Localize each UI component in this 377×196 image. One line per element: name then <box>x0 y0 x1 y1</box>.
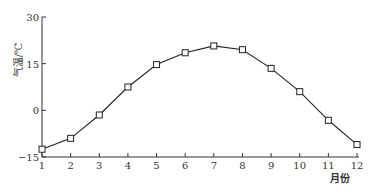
temperature-line-chart: −1501530123456789101112 气温/℃ 月份 <box>0 0 377 196</box>
x-tick-label: 12 <box>351 160 364 171</box>
x-tick-label: 7 <box>211 160 217 171</box>
data-point-marker <box>96 112 102 118</box>
data-point-marker <box>268 65 274 71</box>
data-point-marker <box>68 135 74 141</box>
data-point-marker <box>239 47 245 53</box>
data-point-marker <box>125 84 131 90</box>
x-tick-label: 9 <box>268 160 274 171</box>
temperature-line <box>42 46 357 149</box>
x-tick-label: 1 <box>39 160 45 171</box>
data-point-marker <box>154 62 160 68</box>
y-tick-label: 15 <box>26 59 39 70</box>
x-tick-label: 3 <box>96 160 102 171</box>
x-tick-label: 6 <box>182 160 188 171</box>
data-point-marker <box>325 117 331 123</box>
y-tick-label: 30 <box>26 12 39 23</box>
data-point-marker <box>297 89 303 95</box>
x-tick-label: 4 <box>125 160 131 171</box>
y-axis-label: 气温/℃ <box>12 43 24 78</box>
data-point-marker <box>182 50 188 56</box>
x-tick-label: 11 <box>322 160 335 171</box>
x-tick-label: 10 <box>293 160 306 171</box>
plot-area <box>39 43 360 152</box>
x-tick-label: 5 <box>153 160 159 171</box>
x-tick-label: 2 <box>67 160 73 171</box>
axes: −1501530123456789101112 <box>18 12 363 171</box>
data-point-marker <box>211 43 217 49</box>
y-tick-label: 0 <box>33 105 39 116</box>
data-point-marker <box>354 142 360 148</box>
data-point-marker <box>39 146 45 152</box>
y-tick-label: −15 <box>18 152 39 163</box>
x-tick-label: 8 <box>239 160 245 171</box>
x-axis-label: 月份 <box>329 172 351 184</box>
